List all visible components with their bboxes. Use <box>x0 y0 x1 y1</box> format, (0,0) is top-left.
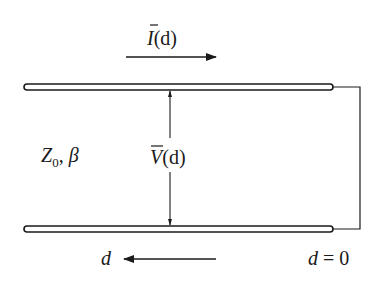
top-conductor <box>24 84 333 90</box>
line-parameters-label: Z0, β <box>41 144 79 170</box>
bottom-conductor <box>24 226 333 232</box>
voltage-label: V(d) <box>150 146 186 169</box>
origin-label: d = 0 <box>308 247 349 269</box>
transmission-line-diagram: I(d) V(d) Z0, β d d = 0 <box>0 0 382 285</box>
current-label: I(d) <box>146 25 177 50</box>
svg-text:I(d): I(d) <box>146 27 177 50</box>
short-circuit-wire <box>333 87 360 229</box>
svg-text:V(d): V(d) <box>150 146 186 169</box>
distance-label: d <box>101 247 112 269</box>
